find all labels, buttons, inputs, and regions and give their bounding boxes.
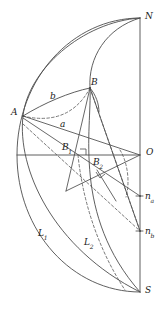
label-normal-b: nb (145, 227, 155, 238)
label-center-O: O (146, 148, 153, 157)
label-angle-B2: B2 (93, 158, 103, 169)
label-angle-B1-sub: 1 (68, 148, 72, 155)
label-normal-b-base: n (145, 226, 151, 236)
label-angle-B1: B1 (62, 143, 72, 154)
arc-a-dashed (23, 88, 90, 118)
right-angle-mark-b1 (80, 149, 86, 155)
label-angle-B2-sub: 2 (99, 163, 103, 170)
label-point-A: A (11, 108, 18, 117)
geometry-figure: N S O A B b a B1 B2 na nb L1 L2 (0, 0, 165, 313)
dot-nb (139, 230, 141, 232)
label-north-pole: N (145, 12, 153, 21)
label-curve-L1-sub: 1 (44, 234, 48, 241)
label-normal-a-base: n (145, 191, 151, 201)
dot-A (22, 115, 24, 117)
label-south-pole: S (145, 286, 151, 295)
label-curve-L1: L1 (38, 229, 48, 240)
label-curve-L2-sub: 2 (90, 243, 94, 250)
dashed-line-A-to-nb (23, 124, 140, 231)
arc-b (23, 88, 90, 116)
line-B2-extension (97, 170, 116, 201)
dot-B (89, 87, 91, 89)
label-normal-b-sub: b (151, 232, 155, 239)
label-arc-b: b (50, 92, 56, 101)
line-A-to-na (23, 118, 140, 196)
label-point-B: B (91, 78, 98, 87)
dashed-ellipse-arc (120, 150, 128, 197)
label-curve-L2: L2 (84, 238, 94, 249)
label-arc-a: a (60, 120, 65, 129)
dot-na (139, 195, 141, 197)
figure-canvas (0, 0, 165, 313)
line-B-downleft (66, 88, 90, 191)
dashed-plane-trace (78, 155, 125, 290)
label-normal-a: na (145, 192, 154, 203)
label-normal-a-sub: a (151, 197, 155, 204)
